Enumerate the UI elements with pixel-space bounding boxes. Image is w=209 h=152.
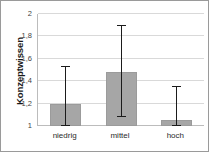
bar-group — [161, 14, 192, 126]
error-bar-line — [121, 26, 122, 117]
bar-group — [106, 14, 137, 126]
error-bar-line — [65, 67, 66, 126]
bar-group — [50, 14, 81, 126]
y-axis-tick-label: 1,6 — [2, 54, 32, 63]
plot-area — [37, 14, 204, 126]
chart-frame: Konzeptwissen 11,21,41,61,82 niedrigmitt… — [0, 0, 209, 152]
x-axis-tick-label: mittel — [90, 131, 150, 140]
error-bar-cap-lower — [117, 116, 126, 117]
x-axis-tick-label: niedrig — [35, 131, 95, 140]
y-axis-tick-label: 2 — [2, 9, 32, 18]
x-axis-tick-label: hoch — [145, 131, 205, 140]
error-bar-cap-lower — [61, 125, 70, 126]
y-axis-tick-label: 1,2 — [2, 99, 32, 108]
y-axis-tick-label: 1,4 — [2, 76, 32, 85]
y-axis-title: Konzeptwissen — [13, 11, 27, 131]
error-bar-cap-upper — [117, 25, 126, 26]
error-bar-cap-upper — [172, 86, 181, 87]
error-bar-cap-upper — [61, 66, 70, 67]
y-axis-tick-label: 1,8 — [2, 31, 32, 40]
y-axis-tick-label: 1 — [2, 121, 32, 130]
error-bar-cap-lower — [172, 125, 181, 126]
error-bar-line — [176, 87, 177, 126]
